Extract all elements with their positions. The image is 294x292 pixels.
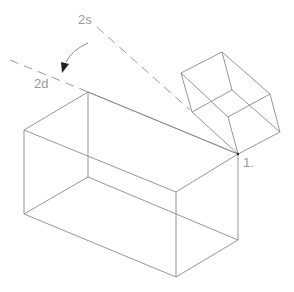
axis-2d-dashed-line	[10, 60, 88, 92]
corner-point-marker	[237, 153, 239, 155]
label-2s: 2s	[78, 12, 92, 27]
small-cube	[181, 52, 280, 154]
axis-2s-dashed-line	[97, 27, 190, 110]
rotation-arrow-icon	[61, 43, 88, 73]
large-box	[24, 92, 238, 277]
diagram-canvas: 2s 2d 1.	[0, 0, 294, 292]
label-2d: 2d	[34, 76, 48, 91]
label-corner-1: 1.	[243, 155, 254, 170]
